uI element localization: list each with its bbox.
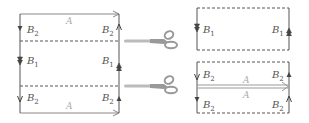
label-b-right-upper: B2 [271, 69, 284, 83]
label-a-lower: A [242, 90, 250, 100]
left-panel: A A B2 B1 B2 B2 B1 B2 [18, 11, 122, 116]
arrow-up-double-icon [117, 63, 122, 71]
label-b-left-bottom: B2 [26, 92, 39, 106]
diagram-canvas: A A B2 B1 B2 B2 B1 B2 B1 B1 [0, 0, 309, 123]
scissors-icon [124, 30, 177, 48]
arrow-right-icon [282, 82, 288, 91]
label-a-upper: A [242, 75, 250, 85]
right-top-piece: B1 B1 [195, 8, 292, 50]
label-b-left: B1 [202, 24, 215, 38]
label-a-bottom: A [65, 101, 73, 111]
arrow-down-double-icon [195, 24, 200, 32]
label-b-right-mid: B1 [101, 55, 114, 69]
arrow-up-icon [287, 72, 292, 77]
right-bottom-piece: B2 B2 B2 B2 A A [195, 62, 292, 113]
arrow-up-double-icon [287, 28, 292, 36]
label-b-right-bottom: B2 [101, 92, 114, 106]
scissors-icon [124, 75, 177, 93]
label-b-right-lower: B2 [271, 99, 284, 113]
label-b-right: B1 [271, 24, 284, 38]
label-a-top: A [65, 16, 73, 26]
arrow-up-icon [117, 96, 122, 101]
arrow-down-double-icon [18, 57, 23, 65]
label-b-right-top: B2 [101, 24, 114, 38]
label-b-left-top: B2 [26, 24, 39, 38]
label-b-left-mid: B1 [26, 55, 39, 69]
label-b-left-upper: B2 [202, 69, 215, 83]
arrow-down-icon [195, 97, 200, 102]
arrow-down-icon [18, 26, 23, 31]
label-b-left-lower: B2 [202, 99, 215, 113]
